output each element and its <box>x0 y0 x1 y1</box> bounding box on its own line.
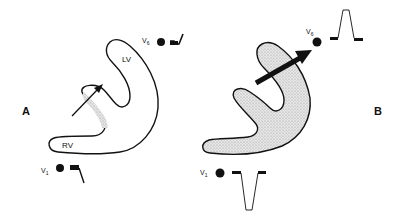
electrode-v1-dot <box>216 169 225 178</box>
panel-a-label: A <box>22 105 30 117</box>
panel-a-lead-v6: V6 <box>142 34 183 46</box>
ventricular-activation-diagram: A LV RV V6 V1 B <box>0 0 403 219</box>
v6-tall-r-wave <box>338 10 354 38</box>
panel-a-ventricle-outline <box>49 40 158 154</box>
svg-text:V6: V6 <box>142 37 150 46</box>
lead-sub: 1 <box>205 172 208 178</box>
svg-text:V1: V1 <box>41 167 49 176</box>
svg-text:V1: V1 <box>200 169 208 178</box>
v1-small-negative-waveform <box>79 168 84 183</box>
electrode-v6-dot <box>157 38 165 46</box>
electrode-v6-dot <box>313 38 322 47</box>
panel-b-label: B <box>374 105 382 117</box>
panel-b-lead-v6: V6 <box>306 10 363 47</box>
panel-b: B V6 V1 <box>200 10 382 210</box>
rv-label: RV <box>62 141 74 150</box>
lead-sub: 6 <box>147 40 150 46</box>
lead-sub: 6 <box>311 31 314 37</box>
svg-text:V6: V6 <box>306 28 314 37</box>
panel-a: A LV RV V6 V1 <box>22 34 183 183</box>
panel-b-lead-v1: V1 <box>200 169 266 211</box>
v1-deep-s-wave <box>241 173 258 210</box>
lead-sub: 1 <box>46 170 49 176</box>
electrode-v1-dot <box>56 164 64 172</box>
panel-a-lead-v1: V1 <box>41 164 84 183</box>
lv-label: LV <box>122 55 132 64</box>
